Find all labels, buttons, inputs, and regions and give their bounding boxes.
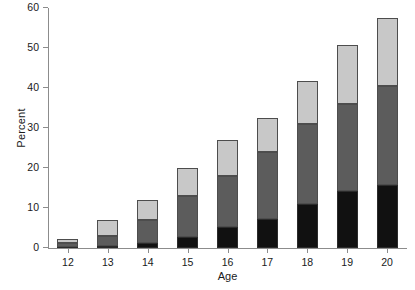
bar-segment-top-segment-age-14[interactable] bbox=[137, 200, 158, 220]
bar-age-17[interactable] bbox=[257, 8, 278, 248]
bar-segment-bottom-segment-age-17[interactable] bbox=[257, 219, 278, 248]
bar-age-14[interactable] bbox=[137, 8, 158, 248]
bar-segment-bottom-segment-age-14[interactable] bbox=[137, 243, 158, 248]
x-tick-label-12: 12 bbox=[53, 256, 83, 268]
x-tick-mark bbox=[267, 249, 268, 253]
bar-segment-bottom-segment-age-15[interactable] bbox=[177, 237, 198, 248]
bar-age-20[interactable] bbox=[377, 8, 398, 248]
x-tick-mark bbox=[387, 249, 388, 253]
y-tick-label: 20 bbox=[0, 161, 39, 173]
bar-age-13[interactable] bbox=[97, 8, 118, 248]
bar-segment-bottom-segment-age-13[interactable] bbox=[97, 246, 118, 248]
x-tick-mark bbox=[307, 249, 308, 253]
bar-age-16[interactable] bbox=[217, 8, 238, 248]
x-tick-label-15: 15 bbox=[173, 256, 203, 268]
x-tick-mark bbox=[188, 249, 189, 253]
x-tick-mark bbox=[108, 249, 109, 253]
stacked-bar-chart: Percent 0102030405060 121314151617181920… bbox=[0, 0, 415, 290]
bar-segment-top-segment-age-20[interactable] bbox=[377, 18, 398, 86]
bar-age-18[interactable] bbox=[297, 8, 318, 248]
y-tick-label: 0 bbox=[0, 241, 39, 253]
bar-segment-top-segment-age-17[interactable] bbox=[257, 118, 278, 152]
x-tick-mark bbox=[148, 249, 149, 253]
bar-segment-middle-segment-age-17[interactable] bbox=[257, 152, 278, 219]
bar-age-12[interactable] bbox=[57, 8, 78, 248]
bar-segment-top-segment-age-12[interactable] bbox=[57, 239, 78, 243]
x-tick-label-13: 13 bbox=[93, 256, 123, 268]
x-tick-label-14: 14 bbox=[133, 256, 163, 268]
bar-segment-bottom-segment-age-19[interactable] bbox=[337, 191, 358, 248]
y-tick-label: 30 bbox=[0, 121, 39, 133]
bar-segment-bottom-segment-age-18[interactable] bbox=[297, 204, 318, 248]
bar-segment-middle-segment-age-15[interactable] bbox=[177, 196, 198, 237]
x-tick-mark bbox=[228, 249, 229, 253]
x-tick-label-20: 20 bbox=[372, 256, 402, 268]
bar-segment-top-segment-age-19[interactable] bbox=[337, 45, 358, 104]
x-tick-label-18: 18 bbox=[292, 256, 322, 268]
y-tick-label: 10 bbox=[0, 201, 39, 213]
bar-segment-top-segment-age-18[interactable] bbox=[297, 81, 318, 124]
bar-segment-middle-segment-age-14[interactable] bbox=[137, 220, 158, 243]
bar-age-19[interactable] bbox=[337, 8, 358, 248]
bar-segment-top-segment-age-15[interactable] bbox=[177, 168, 198, 196]
bar-segment-bottom-segment-age-20[interactable] bbox=[377, 185, 398, 248]
bar-segment-middle-segment-age-20[interactable] bbox=[377, 86, 398, 185]
bar-age-15[interactable] bbox=[177, 8, 198, 248]
x-axis-title: Age bbox=[20, 270, 415, 282]
x-tick-label-16: 16 bbox=[213, 256, 243, 268]
bar-segment-middle-segment-age-12[interactable] bbox=[57, 243, 78, 247]
bar-segment-bottom-segment-age-16[interactable] bbox=[217, 227, 238, 248]
bar-segment-middle-segment-age-13[interactable] bbox=[97, 236, 118, 246]
bar-segment-middle-segment-age-18[interactable] bbox=[297, 124, 318, 204]
x-tick-label-19: 19 bbox=[332, 256, 362, 268]
y-tick-label: 60 bbox=[0, 1, 39, 13]
plot-area bbox=[48, 8, 407, 248]
x-tick-label-17: 17 bbox=[252, 256, 282, 268]
x-tick-mark bbox=[347, 249, 348, 253]
x-tick-mark bbox=[68, 249, 69, 253]
y-tick-label: 50 bbox=[0, 41, 39, 53]
bar-segment-middle-segment-age-16[interactable] bbox=[217, 176, 238, 227]
bar-segment-middle-segment-age-19[interactable] bbox=[337, 104, 358, 191]
bar-segment-top-segment-age-16[interactable] bbox=[217, 140, 238, 176]
bar-segment-top-segment-age-13[interactable] bbox=[97, 220, 118, 236]
y-tick-label: 40 bbox=[0, 81, 39, 93]
